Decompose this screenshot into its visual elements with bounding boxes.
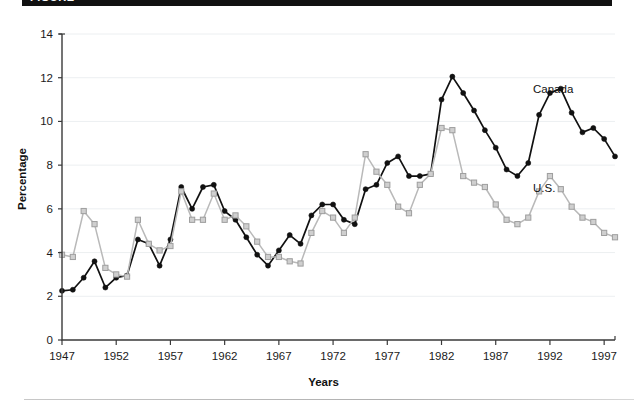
y-tick-label: 6 [47, 203, 53, 215]
data-point [103, 265, 108, 270]
series-line-us [62, 128, 615, 277]
data-point [81, 208, 86, 213]
data-point [450, 74, 455, 79]
x-tick-label: 1992 [537, 350, 563, 362]
data-point [602, 136, 607, 141]
data-point [211, 182, 216, 187]
data-point [276, 254, 281, 259]
data-point [439, 125, 444, 130]
data-point [450, 128, 455, 133]
x-tick-label: 1982 [429, 350, 455, 362]
data-point [341, 217, 346, 222]
y-tick-label: 14 [40, 28, 53, 40]
data-point [168, 243, 173, 248]
data-point [515, 174, 520, 179]
data-point [331, 202, 336, 207]
data-point [580, 130, 585, 135]
y-tick-label: 4 [47, 247, 54, 259]
data-point [374, 182, 379, 187]
x-tick-label: 1947 [49, 350, 75, 362]
data-point [352, 222, 357, 227]
data-point [320, 208, 325, 213]
data-point [81, 275, 86, 280]
data-point [298, 261, 303, 266]
data-point [417, 182, 422, 187]
data-point [244, 224, 249, 229]
data-point [124, 274, 129, 279]
data-point [482, 184, 487, 189]
data-point [309, 230, 314, 235]
y-tick-label: 12 [40, 72, 53, 84]
data-point [504, 167, 509, 172]
data-point [547, 173, 552, 178]
data-point [287, 233, 292, 238]
data-point [493, 145, 498, 150]
y-tick-label: 0 [47, 334, 53, 346]
data-point [146, 241, 151, 246]
data-point [320, 202, 325, 207]
data-point [190, 217, 195, 222]
data-point [157, 263, 162, 268]
x-tick-label: 1987 [483, 350, 509, 362]
data-point [591, 125, 596, 130]
data-point [341, 230, 346, 235]
x-tick-label: 1967 [266, 350, 292, 362]
data-point [385, 182, 390, 187]
data-point [396, 154, 401, 159]
data-point [211, 191, 216, 196]
data-point [363, 187, 368, 192]
data-point [580, 215, 585, 220]
data-point [439, 97, 444, 102]
data-point [135, 217, 140, 222]
x-axis-title: Years [308, 376, 339, 388]
data-point [287, 259, 292, 264]
x-tick-label: 1997 [591, 350, 617, 362]
y-tick-label: 10 [40, 115, 53, 127]
axis-labels: 0246810121419471952195719621967197219771… [16, 28, 617, 388]
data-point [70, 287, 75, 292]
data-point [363, 152, 368, 157]
data-point [244, 235, 249, 240]
data-point [92, 222, 97, 227]
data-point [461, 173, 466, 178]
data-point [190, 206, 195, 211]
data-point [504, 217, 509, 222]
data-point [472, 108, 477, 113]
data-point [515, 222, 520, 227]
data-point [70, 254, 75, 259]
data-point [482, 128, 487, 133]
y-tick-label: 8 [47, 159, 53, 171]
footer-divider [24, 399, 634, 400]
data-point [276, 248, 281, 253]
data-point [406, 174, 411, 179]
x-tick-label: 1962 [212, 350, 238, 362]
data-point [526, 215, 531, 220]
data-point [493, 202, 498, 207]
data-point [200, 185, 205, 190]
data-point [612, 235, 617, 240]
data-point [114, 272, 119, 277]
data-point [92, 259, 97, 264]
data-point [591, 219, 596, 224]
data-point [569, 110, 574, 115]
data-point [558, 187, 563, 192]
x-tick-label: 1952 [103, 350, 129, 362]
data-point [233, 213, 238, 218]
data-point [613, 154, 618, 159]
data-point [298, 241, 303, 246]
data-point [222, 217, 227, 222]
x-tick-label: 1972 [320, 350, 346, 362]
data-point [396, 204, 401, 209]
data-point [255, 239, 260, 244]
axes-layer [58, 34, 615, 345]
data-point [103, 285, 108, 290]
data-point [385, 160, 390, 165]
data-point [471, 180, 476, 185]
chart-svg: 0246810121419471952195719621967197219771… [0, 0, 637, 411]
data-point [352, 215, 357, 220]
x-tick-label: 1957 [158, 350, 184, 362]
data-point [135, 237, 140, 242]
data-point [374, 169, 379, 174]
x-tick-label: 1977 [374, 350, 400, 362]
y-tick-label: 2 [47, 290, 53, 302]
